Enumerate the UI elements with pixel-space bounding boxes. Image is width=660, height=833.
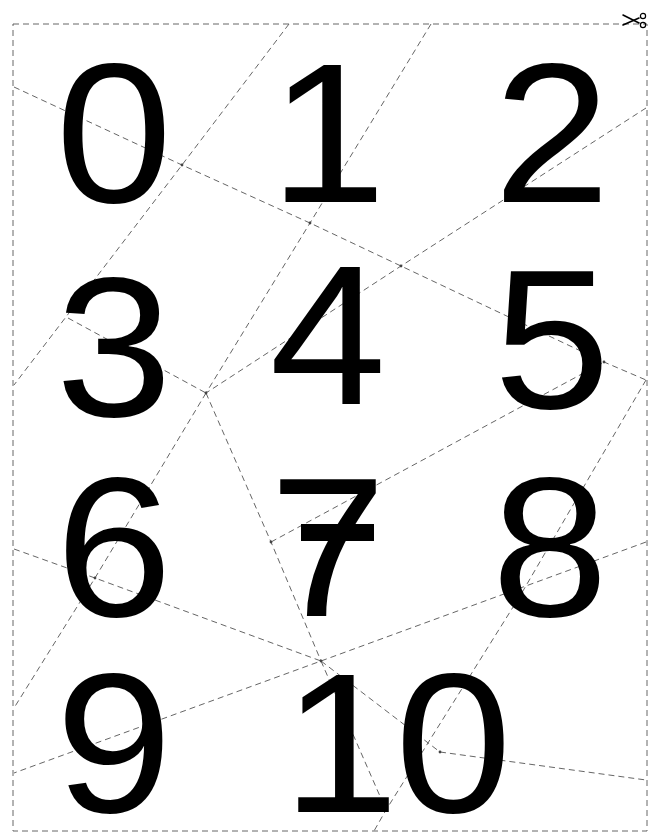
digit-2: 2 <box>486 34 618 234</box>
digit-7: 7 <box>262 448 394 648</box>
cutout-sheet: 0 1 2 3 4 5 6 7 8 9 10 <box>0 0 660 833</box>
digit-10: 10 <box>270 644 520 833</box>
digit-5: 5 <box>486 240 618 440</box>
digit-3: 3 <box>48 248 180 448</box>
digit-9: 9 <box>48 644 180 833</box>
digit-0: 0 <box>48 34 180 234</box>
scissors-icon <box>622 10 648 32</box>
digit-7-crossbar <box>301 524 374 541</box>
digit-6: 6 <box>48 448 180 648</box>
digit-8: 8 <box>484 448 616 648</box>
digit-4: 4 <box>262 236 394 436</box>
digit-1: 1 <box>262 34 394 234</box>
